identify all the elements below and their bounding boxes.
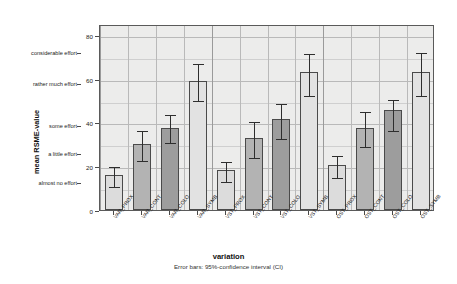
error-bar-cap-lower — [193, 101, 204, 102]
error-bar-cap-upper — [388, 100, 399, 101]
gridline-vertical — [295, 26, 296, 210]
gridline-vertical — [379, 26, 380, 210]
error-bar-ost_prox — [337, 156, 338, 178]
y-tick-mark — [95, 211, 99, 212]
y-tick-label-60: 60 — [86, 76, 93, 83]
error-bar-ost_symb — [421, 53, 422, 96]
gridline-vertical — [240, 26, 241, 210]
error-bar-cap-upper — [304, 54, 315, 55]
error-bar-cap-lower — [137, 161, 148, 162]
error-bar-var_colo — [170, 115, 171, 143]
y-tick-label-0: 0 — [90, 208, 93, 215]
error-bar-cap-lower — [109, 187, 120, 188]
error-bar-cap-upper — [221, 162, 232, 163]
gridline-horizontal-minor — [100, 103, 433, 104]
y-category-tick-mark — [77, 84, 81, 85]
y-tick-label-40: 40 — [86, 120, 93, 127]
gridline-vertical — [212, 26, 213, 210]
y-tick-label-20: 20 — [86, 164, 93, 171]
plot-area — [99, 25, 434, 211]
error-bar-cap-upper — [137, 131, 148, 132]
error-bar-cap-lower — [416, 96, 427, 97]
gridline-vertical — [407, 26, 408, 210]
y-category-label: almost no effort — [39, 180, 77, 186]
error-bar-cap-upper — [360, 112, 371, 113]
error-bar-ost_colo — [393, 100, 394, 131]
x-axis-title: variation — [0, 252, 457, 261]
y-category-tick-mark — [77, 154, 81, 155]
chart-container: mean RSME-value almost no efforta little… — [0, 0, 457, 284]
error-bar-var_cont — [142, 131, 143, 161]
error-bar-cap-lower — [276, 139, 287, 140]
y-category-label: some effort — [49, 123, 77, 129]
error-bar-cap-lower — [165, 143, 176, 144]
gridline-horizontal — [100, 37, 433, 38]
error-bar-cap-upper — [276, 104, 287, 105]
error-bar-cap-upper — [165, 115, 176, 116]
y-category-label: considerable effort — [31, 50, 77, 56]
gridline-vertical — [156, 26, 157, 210]
error-bar-var_prox — [114, 167, 115, 187]
gridline-horizontal — [100, 124, 433, 125]
gridline-vertical — [351, 26, 352, 210]
error-bar-ost_cont — [365, 112, 366, 147]
y-tick-label-80: 80 — [86, 32, 93, 39]
gridline-horizontal-minor — [100, 59, 433, 60]
error-bar-cap-upper — [109, 167, 120, 168]
error-bar-cap-upper — [193, 64, 204, 65]
y-category-tick-mark — [77, 183, 81, 184]
error-bar-cap-lower — [332, 178, 343, 179]
gridline-vertical — [184, 26, 185, 210]
error-bar-vst_colo — [281, 104, 282, 139]
gridline-vertical — [100, 26, 101, 210]
error-bar-footnote: Error bars: 95%-confidence interval (CI) — [0, 263, 457, 270]
error-bar-cap-lower — [360, 147, 371, 148]
error-bar-cap-lower — [304, 96, 315, 97]
error-bar-cap-lower — [221, 182, 232, 183]
gridline-vertical — [128, 26, 129, 210]
y-category-tick-mark — [77, 126, 81, 127]
y-category-label: a little effort — [48, 151, 77, 157]
gridline-vertical — [323, 26, 324, 210]
error-bar-vst_symb — [309, 54, 310, 96]
error-bar-vst_prox — [226, 162, 227, 183]
error-bar-cap-lower — [249, 158, 260, 159]
plot-inner — [100, 26, 433, 210]
y-axis-title: mean RSME-value — [32, 110, 41, 174]
error-bar-cap-upper — [332, 156, 343, 157]
gridline-horizontal — [100, 81, 433, 82]
error-bar-cap-upper — [249, 122, 260, 123]
error-bar-var_symb — [198, 64, 199, 101]
error-bar-vst_cont — [254, 122, 255, 158]
y-category-label: rather much effort — [33, 81, 77, 87]
gridline-vertical — [268, 26, 269, 210]
y-category-tick-mark — [77, 53, 81, 54]
error-bar-cap-upper — [416, 53, 427, 54]
error-bar-cap-lower — [388, 131, 399, 132]
